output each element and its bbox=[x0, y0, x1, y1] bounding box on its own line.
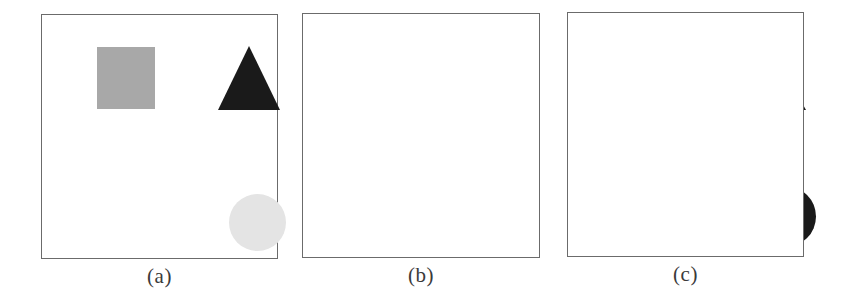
panel-a-light-gray-circle bbox=[229, 194, 286, 251]
panel-a-gray-square bbox=[97, 47, 155, 109]
panel-c-caption: (c) bbox=[567, 262, 804, 286]
panel-a-black-triangle bbox=[218, 46, 280, 110]
panel-a-frame bbox=[41, 14, 278, 259]
panel-b-frame bbox=[302, 13, 540, 258]
panel-b-caption: (b) bbox=[302, 263, 540, 287]
figure-canvas: (a) (b) (c) bbox=[0, 0, 841, 304]
panel-a-caption: (a) bbox=[41, 264, 278, 288]
panel-c-frame bbox=[567, 12, 804, 257]
